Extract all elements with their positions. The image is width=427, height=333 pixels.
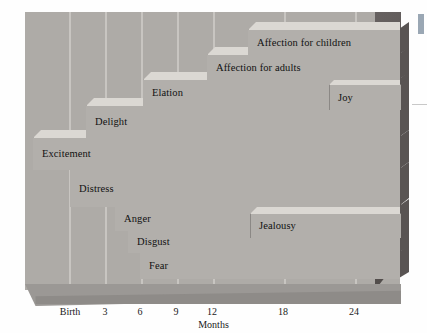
bar-label: Joy bbox=[338, 91, 353, 102]
bar-affection-for-children: Affection for children bbox=[248, 29, 400, 54]
bar-front-face bbox=[70, 169, 400, 207]
bar-front-face bbox=[140, 252, 400, 279]
xtick-18: 18 bbox=[278, 306, 288, 317]
bar-label: Affection for children bbox=[257, 36, 351, 47]
bar-label: Elation bbox=[152, 87, 183, 98]
bar-affection-for-adults: Affection for adults bbox=[207, 54, 400, 79]
margin-artifact-rule bbox=[412, 104, 427, 105]
x-axis-title: Months bbox=[0, 319, 427, 330]
bar-distress: Distress bbox=[70, 169, 400, 206]
xtick-6: 6 bbox=[138, 306, 143, 317]
bar-joy: Joy bbox=[329, 84, 400, 109]
xtick-birth: Birth bbox=[60, 306, 81, 317]
xtick-3: 3 bbox=[103, 306, 108, 317]
bar-label: Excitement bbox=[42, 148, 91, 159]
bar-label: Distress bbox=[79, 182, 114, 193]
bar-jealousy: Jealousy bbox=[250, 213, 400, 237]
bar-label: Fear bbox=[149, 260, 168, 271]
bar-top-face bbox=[248, 22, 400, 30]
bar-label: Disgust bbox=[137, 236, 170, 247]
bar-label: Anger bbox=[124, 213, 151, 224]
xtick-12: 12 bbox=[207, 306, 217, 317]
xtick-9: 9 bbox=[174, 306, 179, 317]
chart-figure: Affection for children Affection for adu… bbox=[0, 0, 427, 333]
bar-label: Affection for adults bbox=[216, 61, 301, 72]
bar-top-face bbox=[250, 206, 400, 214]
bar-label: Jealousy bbox=[259, 220, 296, 231]
bar-label: Delight bbox=[95, 116, 127, 127]
bar-side-face bbox=[399, 162, 409, 206]
bar-excitement: Excitement bbox=[33, 137, 400, 169]
margin-artifact-top bbox=[418, 14, 424, 34]
bar-fear: Fear bbox=[140, 252, 400, 278]
xtick-24: 24 bbox=[349, 306, 359, 317]
